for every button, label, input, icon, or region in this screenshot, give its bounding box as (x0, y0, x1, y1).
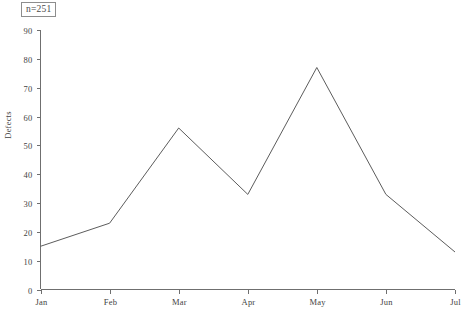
line-chart: n=251 Defects 0102030405060708090 JanFeb… (0, 0, 467, 311)
x-tick-label: Jul (450, 297, 461, 307)
y-tick-label: 30 (24, 199, 33, 209)
x-tick-label: Jan (36, 297, 48, 307)
y-tick-label: 50 (24, 141, 33, 151)
x-tick-label: Feb (104, 297, 117, 307)
axes (41, 30, 456, 290)
plot-area: 0102030405060708090 JanFebMarAprMayJunJu… (0, 0, 467, 311)
y-tick-label: 40 (24, 170, 33, 180)
x-tick-label: Apr (242, 297, 256, 307)
y-tick-label: 80 (24, 55, 33, 65)
y-tick-label: 70 (24, 84, 33, 94)
y-axis-ticks: 0102030405060708090 (24, 26, 41, 296)
y-tick-label: 60 (24, 113, 33, 123)
y-tick-label: 20 (24, 228, 33, 238)
x-tick-label: May (309, 297, 326, 307)
y-tick-label: 90 (24, 26, 33, 36)
x-tick-label: Mar (172, 297, 187, 307)
x-axis-ticks: JanFebMarAprMayJunJul (36, 290, 462, 307)
defects-series-line (41, 68, 456, 253)
y-tick-label: 10 (24, 257, 33, 267)
x-tick-label: Jun (380, 297, 393, 307)
y-tick-label: 0 (28, 286, 32, 296)
